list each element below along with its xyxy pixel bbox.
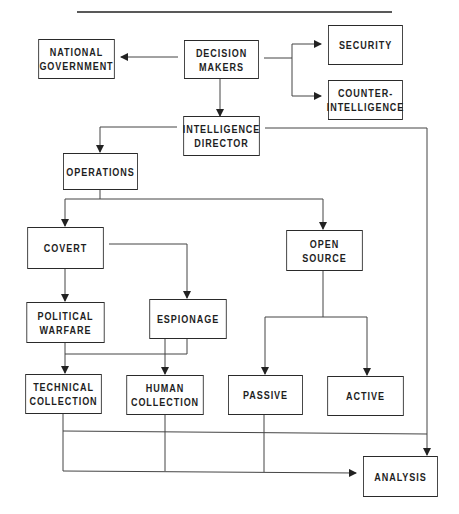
node-label: DECISION MAKERS: [196, 46, 247, 74]
node-decision-makers: DECISION MAKERS: [184, 40, 259, 79]
node-political-warfare: POLITICAL WARFARE: [26, 302, 104, 343]
node-national-government: NATIONAL GOVERNMENT: [38, 39, 115, 79]
node-label: ANALYSIS: [374, 470, 426, 484]
node-label: COUNTER- INTELLIGENCE: [327, 86, 405, 114]
node-label: OPEN SOURCE: [287, 237, 362, 265]
node-label: PASSIVE: [243, 388, 288, 402]
node-label: ACTIVE: [346, 389, 385, 403]
node-label: INTELLIGENCE DIRECTOR: [183, 122, 261, 150]
node-label: OPERATIONS: [66, 165, 135, 179]
node-espionage: ESPIONAGE: [149, 299, 226, 339]
node-counter-intelligence: COUNTER- INTELLIGENCE: [328, 80, 403, 120]
node-label: NATIONAL GOVERNMENT: [39, 45, 113, 73]
node-open-source: OPEN SOURCE: [286, 230, 363, 271]
node-label: COVERT: [44, 241, 87, 255]
node-label: TECHNICAL COLLECTION: [29, 380, 97, 408]
intelligence-organization-diagram: NATIONAL GOVERNMENT DECISION MAKERS SECU…: [0, 0, 459, 514]
node-label: HUMAN COLLECTION: [131, 381, 199, 409]
node-label: SECURITY: [339, 38, 392, 52]
node-intelligence-director: INTELLIGENCE DIRECTOR: [183, 116, 260, 156]
node-technical-collection: TECHNICAL COLLECTION: [25, 374, 102, 414]
node-label: POLITICAL WARFARE: [37, 309, 93, 337]
node-operations: OPERATIONS: [63, 153, 138, 190]
node-human-collection: HUMAN COLLECTION: [126, 375, 203, 415]
node-covert: COVERT: [27, 227, 104, 269]
node-label: ESPIONAGE: [157, 312, 219, 326]
node-active: ACTIVE: [327, 376, 404, 416]
node-passive: PASSIVE: [228, 375, 303, 415]
node-analysis: ANALYSIS: [363, 456, 438, 497]
node-security: SECURITY: [328, 25, 403, 65]
